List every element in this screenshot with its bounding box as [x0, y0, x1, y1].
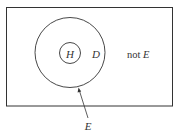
label-not-prefix: not [127, 49, 143, 60]
venn-diagram: H D not E E [0, 0, 177, 135]
label-h: H [65, 48, 75, 60]
label-not-e: not E [127, 49, 150, 60]
pointer-arrow-line [80, 91, 89, 118]
label-not-e-var: E [142, 49, 150, 60]
label-d: D [91, 48, 100, 60]
pointer-arrowhead-icon [78, 88, 82, 93]
label-e-pointer: E [84, 120, 92, 132]
